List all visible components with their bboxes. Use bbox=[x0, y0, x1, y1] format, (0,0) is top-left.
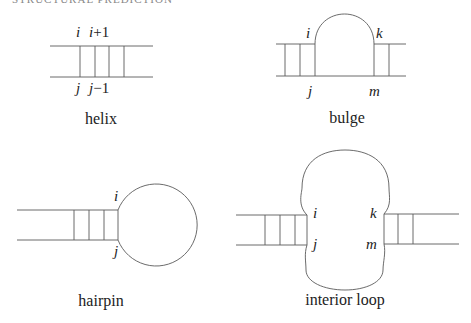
bulge-label-j: j bbox=[306, 83, 312, 99]
interior-label-j: j bbox=[311, 236, 317, 252]
rna-structure-diagram: STRUCTURAL PREDICTION i i+1 j j−1 helix … bbox=[0, 0, 471, 323]
interior-label-i: i bbox=[313, 205, 317, 221]
hairpin-caption: hairpin bbox=[78, 292, 123, 310]
helix-label-i-plus-1: i+1 bbox=[89, 24, 109, 40]
bulge-label-m: m bbox=[369, 83, 380, 99]
interior-loop-panel: i j k m interior loop bbox=[236, 150, 459, 309]
bulge-label-k: k bbox=[376, 25, 383, 41]
hairpin-label-i: i bbox=[114, 188, 118, 204]
bulge-panel: i k j m bulge bbox=[276, 14, 406, 127]
interior-label-k: k bbox=[370, 205, 377, 221]
helix-caption: helix bbox=[85, 110, 117, 127]
bulge-loop-arc bbox=[315, 14, 374, 44]
bulge-label-i: i bbox=[306, 25, 310, 41]
page-header: STRUCTURAL PREDICTION bbox=[12, 0, 173, 5]
helix-label-j: j bbox=[74, 80, 80, 96]
interior-loop-caption: interior loop bbox=[305, 291, 385, 309]
bulge-caption: bulge bbox=[329, 109, 365, 127]
hairpin-panel: i j hairpin bbox=[17, 184, 197, 310]
helix-label-j-minus-1: j−1 bbox=[87, 80, 109, 96]
helix-panel: i i+1 j j−1 helix bbox=[50, 24, 153, 127]
hairpin-loop bbox=[118, 184, 197, 266]
hairpin-label-j: j bbox=[112, 243, 118, 259]
interior-label-m: m bbox=[366, 236, 377, 252]
helix-label-i: i bbox=[76, 24, 80, 40]
